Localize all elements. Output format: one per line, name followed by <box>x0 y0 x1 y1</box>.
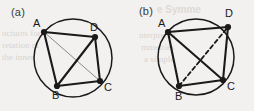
panel-a-diagram <box>0 0 127 111</box>
side-AD <box>44 32 95 37</box>
vertex-label-B: B <box>175 91 182 102</box>
side-DC <box>223 27 228 80</box>
vertex-label-C: C <box>104 82 112 93</box>
diagonal-BD <box>57 37 95 86</box>
vertex-label-B: B <box>52 90 59 101</box>
diagonal-AC <box>44 32 100 81</box>
vertex-label-C: C <box>227 81 235 92</box>
vertex-label-D: D <box>90 22 98 33</box>
panel-a: (a) ADCB <box>0 0 127 111</box>
vertex-label-D: D <box>225 8 233 19</box>
side-DC <box>95 37 100 81</box>
figure-container: e Symmeuctures forretation ofthe innernt… <box>0 0 254 111</box>
side-AD <box>168 27 228 32</box>
vertex-dot-D <box>225 24 231 30</box>
vertex-dot-C <box>97 78 103 84</box>
vertex-dot-A <box>41 29 47 35</box>
vertex-dot-A <box>165 29 171 35</box>
vertex-dot-D <box>92 34 98 40</box>
side-CB <box>57 81 100 86</box>
vertex-label-A: A <box>33 18 40 29</box>
vertex-label-A: A <box>158 18 165 29</box>
panel-b: (b) ADCB <box>127 0 254 111</box>
side-CB <box>179 80 223 86</box>
vertex-dot-B <box>176 83 182 89</box>
side-BA <box>44 32 57 86</box>
panel-b-diagram <box>127 0 254 111</box>
vertex-dot-C <box>220 77 226 83</box>
